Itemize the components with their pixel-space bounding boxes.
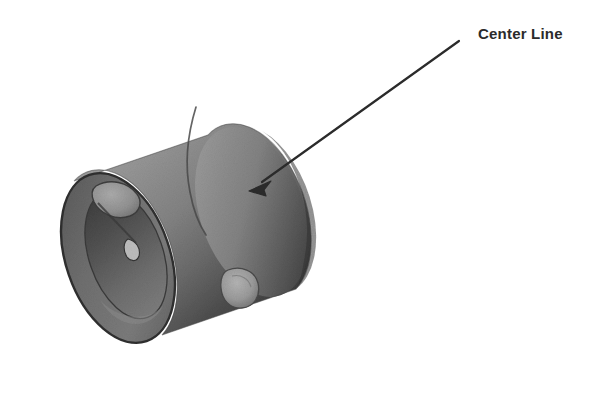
cylinder-object [40, 107, 330, 358]
side-wall-hole [221, 268, 259, 308]
figure-canvas: Center Line [0, 0, 613, 393]
leader-line [262, 41, 459, 182]
center-line-label: Center Line [478, 26, 563, 41]
cylinder-render [0, 0, 613, 393]
